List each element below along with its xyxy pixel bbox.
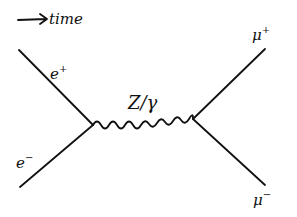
time-arrow: time — [18, 10, 83, 28]
feynman-diagram: time e+ e− Z/γ μ+ μ− — [0, 0, 297, 217]
e-plus-line — [19, 50, 93, 125]
e-minus-label: e− — [16, 152, 33, 172]
time-label: time — [49, 10, 83, 28]
arrow-icon — [18, 14, 47, 24]
mu-plus-line — [193, 49, 265, 119]
mu-plus-label: μ+ — [252, 24, 270, 44]
mu-minus-line — [193, 119, 265, 185]
e-plus-label: e+ — [50, 63, 67, 83]
boson-label: Z/γ — [127, 92, 158, 113]
boson-propagator — [93, 115, 193, 128]
mu-minus-label: μ− — [253, 189, 271, 209]
